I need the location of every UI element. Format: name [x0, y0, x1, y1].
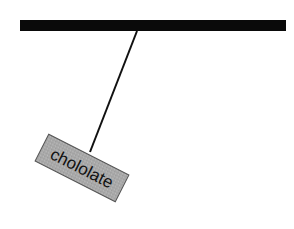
- ceiling-bar: [20, 20, 286, 31]
- diagram-canvas: chololate: [0, 0, 294, 229]
- hanging-string: [90, 31, 137, 152]
- hanging-sign: chololate: [35, 134, 129, 202]
